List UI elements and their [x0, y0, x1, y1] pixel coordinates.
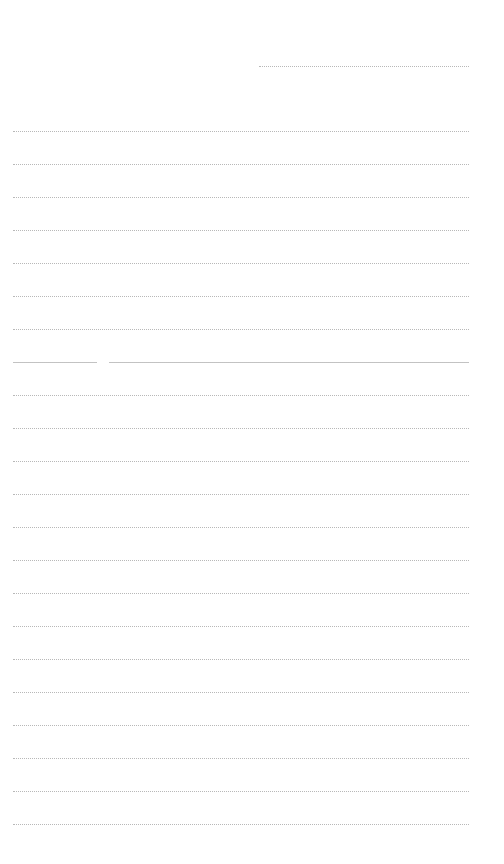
- ruled-line: [13, 461, 469, 462]
- ruled-line: [13, 758, 469, 759]
- ruled-line: [13, 164, 469, 165]
- ruled-line: [13, 791, 469, 792]
- ruled-line: [13, 329, 469, 330]
- ruled-line: [13, 362, 469, 363]
- ruled-line: [13, 593, 469, 594]
- ruled-line: [13, 692, 469, 693]
- ruled-line: [13, 230, 469, 231]
- ruled-line: [13, 131, 469, 132]
- ruled-line: [13, 659, 469, 660]
- ruled-line: [13, 197, 469, 198]
- ruled-line: [13, 560, 469, 561]
- ruled-line: [13, 296, 469, 297]
- ruled-line: [13, 263, 469, 264]
- ruled-line: [13, 725, 469, 726]
- ruled-line: [13, 626, 469, 627]
- header-date-line: [259, 66, 469, 67]
- ruled-line: [13, 824, 469, 825]
- ruled-line: [13, 527, 469, 528]
- ruled-line: [13, 428, 469, 429]
- ruled-line: [13, 395, 469, 396]
- lined-page: [0, 0, 504, 864]
- ruled-line: [13, 494, 469, 495]
